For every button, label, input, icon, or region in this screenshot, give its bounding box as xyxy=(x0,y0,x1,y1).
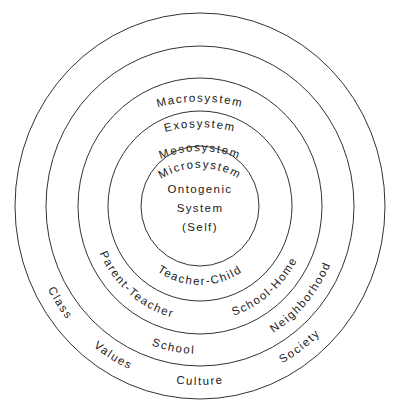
self-label-line-3: (Self) xyxy=(182,221,218,233)
ecological-systems-diagram: Macrosystem Exosystem Mesosystem Microsy… xyxy=(0,0,395,409)
class-label: Class xyxy=(46,285,76,322)
microsystem-title: Microsystem xyxy=(156,158,244,181)
mesosystem-title: Mesosystem xyxy=(157,141,242,161)
neighborhood-label: Neighborhood xyxy=(268,260,333,335)
society-label: Society xyxy=(277,326,322,365)
school-label: School xyxy=(151,336,196,356)
macrosystem-title: Macrosystem xyxy=(155,92,245,109)
self-label-line-1: Ontogenic xyxy=(167,183,232,195)
parent-teacher-label: Parent-Teacher xyxy=(98,249,176,320)
culture-label: Culture xyxy=(176,373,225,387)
self-label-line-2: System xyxy=(177,202,224,214)
exosystem-title: Exosystem xyxy=(163,117,237,134)
values-label: Values xyxy=(92,339,135,372)
